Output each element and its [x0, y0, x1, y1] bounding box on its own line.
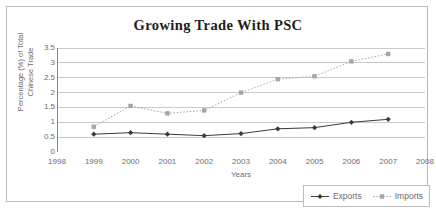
plot-area: [57, 48, 425, 152]
y-axis-tick-label: 1: [27, 118, 55, 126]
gridlines: [57, 48, 425, 152]
x-axis-tick-label: 2005: [295, 157, 335, 166]
series-exports: [91, 117, 391, 139]
y-axis-tick-label: 3: [27, 59, 55, 67]
x-axis-tick-label: 2002: [184, 157, 224, 166]
y-axis-tick-labels: 00.511.522.533.5: [25, 48, 55, 152]
legend-item-exports[interactable]: Exports: [310, 191, 362, 201]
chart-legend: ExportsImports: [303, 185, 430, 207]
y-axis-title-line1: Percentage (%) of Total: [16, 33, 25, 111]
x-axis-tick-label: 1999: [74, 157, 114, 166]
chart-container: Growing Trade With PSC Percentage (%) of…: [6, 6, 428, 202]
plot-svg: [57, 48, 425, 152]
x-axis-tick-labels: 1998199920002001200220032004200520062007…: [57, 157, 425, 169]
y-axis-tick-label: 3.5: [27, 44, 55, 52]
x-axis-tick-label: 2001: [147, 157, 187, 166]
x-axis-tick-label: 1998: [37, 157, 77, 166]
legend-item-label: Exports: [333, 191, 362, 201]
y-axis-tick-label: 2.5: [27, 74, 55, 82]
x-axis-tick-label: 2004: [258, 157, 298, 166]
y-axis-tick-label: 2: [27, 89, 55, 97]
chart-title: Growing Trade With PSC: [7, 17, 429, 34]
x-axis-title: Years: [57, 170, 425, 179]
legend-item-label: Imports: [395, 191, 423, 201]
legend-item-imports[interactable]: Imports: [372, 191, 423, 201]
data-series-layer: [91, 52, 391, 139]
x-axis-tick-label: 2007: [368, 157, 408, 166]
x-axis-tick-label: 2008: [405, 157, 436, 166]
x-axis-tick-label: 2003: [221, 157, 261, 166]
legend-diamond-marker-icon: [310, 192, 330, 201]
y-axis-tick-label: 0.5: [27, 133, 55, 141]
x-axis-tick-label: 2006: [331, 157, 371, 166]
legend-square-marker-icon: [372, 192, 392, 201]
y-axis-tick-label: 1.5: [27, 103, 55, 111]
x-axis-tick-label: 2000: [111, 157, 151, 166]
y-axis-tick-label: 0: [27, 148, 55, 156]
